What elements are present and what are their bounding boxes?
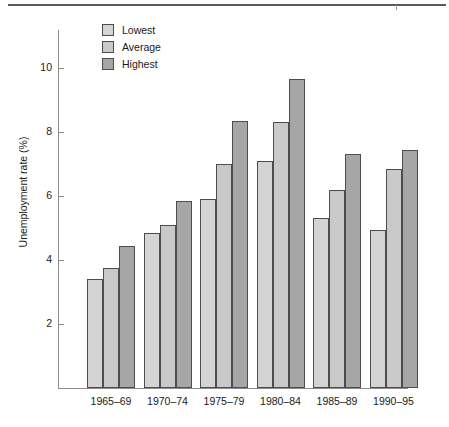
y-axis-tick <box>59 260 64 261</box>
y-axis-tick-label-wrapper: 8 <box>18 132 52 133</box>
x-axis-tick-label: 1965–69 <box>81 395 141 407</box>
bar-average-1980–84 <box>273 122 289 388</box>
x-axis-tick-label: 1985–89 <box>307 395 367 407</box>
chart-figure: Unemployment rate (%) 246810 1965–691970… <box>0 0 449 427</box>
y-axis-tick-label: 4 <box>22 254 52 265</box>
x-axis-line <box>58 388 408 389</box>
legend-item-lowest: Lowest <box>102 22 161 38</box>
y-axis-tick <box>59 196 64 197</box>
bar-highest-1970–74 <box>176 201 192 388</box>
bar-average-1975–79 <box>216 164 232 388</box>
bar-lowest-1975–79 <box>200 199 216 388</box>
bar-lowest-1965–69 <box>87 279 103 388</box>
top-rule-tick-mark <box>396 5 397 10</box>
bar-lowest-1985–89 <box>313 218 329 388</box>
bar-average-1965–69 <box>103 268 119 388</box>
legend-swatch-icon <box>102 41 114 53</box>
y-axis-line <box>58 30 59 389</box>
x-axis-tick-label: 1975–79 <box>194 395 254 407</box>
bar-lowest-1980–84 <box>257 161 273 388</box>
y-axis-tick-label-wrapper: 10 <box>18 68 52 69</box>
y-axis-tick-label-wrapper: 4 <box>18 260 52 261</box>
bar-average-1970–74 <box>160 225 176 388</box>
x-axis-tick-label: 1980–84 <box>251 395 311 407</box>
y-axis-tick-label: 8 <box>22 126 52 137</box>
chart-legend: LowestAverageHighest <box>102 22 161 73</box>
x-axis-tick-label: 1990–95 <box>364 395 424 407</box>
bar-highest-1985–89 <box>345 154 361 388</box>
y-axis-tick <box>59 324 64 325</box>
legend-item-label: Lowest <box>122 25 155 36</box>
legend-item-highest: Highest <box>102 56 161 72</box>
y-axis-tick-label: 6 <box>22 190 52 201</box>
bar-average-1985–89 <box>329 190 345 388</box>
bar-lowest-1990–95 <box>370 230 386 388</box>
legend-item-label: Average <box>122 42 161 53</box>
legend-item-average: Average <box>102 39 161 55</box>
bar-average-1990–95 <box>386 169 402 388</box>
bar-highest-1980–84 <box>289 79 305 388</box>
y-axis-tick <box>59 68 64 69</box>
legend-item-label: Highest <box>122 59 158 70</box>
bar-highest-1990–95 <box>402 150 418 388</box>
top-horizontal-rule <box>8 4 446 6</box>
y-axis-tick <box>59 132 64 133</box>
y-axis-tick-label-wrapper: 2 <box>18 324 52 325</box>
y-axis-tick-label: 2 <box>22 318 52 329</box>
legend-swatch-icon <box>102 24 114 36</box>
bar-highest-1975–79 <box>232 121 248 388</box>
y-axis-tick-label: 10 <box>22 62 52 73</box>
x-axis-tick-label: 1970–74 <box>138 395 198 407</box>
bar-lowest-1970–74 <box>144 233 160 388</box>
y-axis-tick-label-wrapper: 6 <box>18 196 52 197</box>
legend-swatch-icon <box>102 58 114 70</box>
bar-highest-1965–69 <box>119 246 135 388</box>
